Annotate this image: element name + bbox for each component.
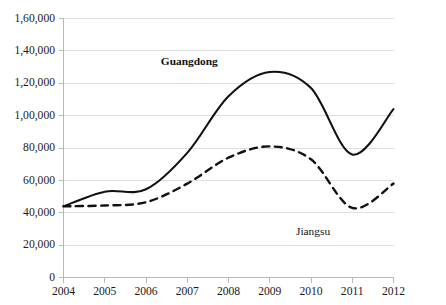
y-tick-label-100000: 1,00,000	[14, 109, 55, 122]
x-tick-label-2006: 2006	[134, 285, 157, 298]
x-tickmarks-group	[64, 278, 394, 283]
series-line-guangdong	[64, 72, 394, 207]
y-tick-label-0: 0	[49, 271, 55, 284]
x-tick-label-2012: 2012	[382, 285, 405, 298]
series-label-guangdong: Guangdong	[161, 55, 218, 67]
y-tick-label-160000: 1,60,000	[14, 12, 55, 25]
series-line-jiangsu	[64, 146, 394, 208]
chart-canvas: 020,00040,00060,00080,0001,00,0001,20,00…	[0, 0, 446, 305]
x-tick-label-2011: 2011	[341, 285, 364, 298]
x-tick-label-2009: 2009	[258, 285, 281, 298]
x-tick-label-2005: 2005	[93, 285, 116, 298]
y-tick-label-140000: 1,40,000	[14, 44, 55, 57]
series-lines-group	[64, 72, 394, 209]
y-tickmarks-group	[59, 19, 64, 278]
y-tick-label-80000: 80,000	[23, 141, 55, 154]
y-tick-label-40000: 40,000	[23, 206, 55, 219]
x-tick-label-2004: 2004	[52, 285, 75, 298]
series-label-jiangsu: Jiangsu	[296, 225, 330, 237]
y-axis-tick-labels: 020,00040,00060,00080,0001,00,0001,20,00…	[14, 12, 55, 284]
y-tick-label-120000: 1,20,000	[14, 76, 55, 89]
x-axis-tick-labels: 200420052006200720082009201020112012	[52, 285, 405, 298]
line-chart: 020,00040,00060,00080,0001,00,0001,20,00…	[0, 0, 446, 305]
x-tick-label-2008: 2008	[217, 285, 240, 298]
y-tick-label-60000: 60,000	[23, 174, 55, 187]
x-tick-label-2007: 2007	[176, 285, 199, 298]
y-tick-label-20000: 20,000	[23, 238, 55, 251]
x-tick-label-2010: 2010	[299, 285, 322, 298]
